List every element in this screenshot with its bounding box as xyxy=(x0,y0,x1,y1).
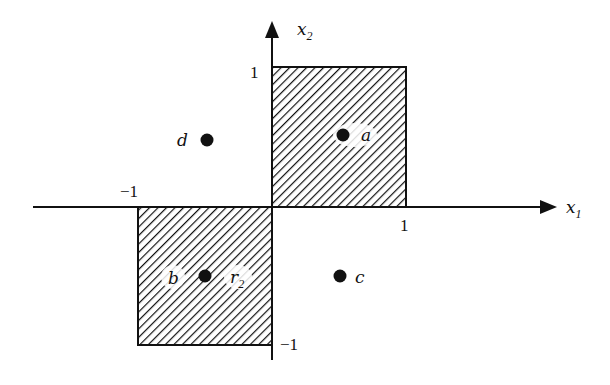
y-tick-pos: 1 xyxy=(250,63,259,82)
point-c: c xyxy=(334,267,366,287)
point-b-label: b xyxy=(168,268,179,288)
point-b-dot xyxy=(199,270,212,283)
point-d-dot xyxy=(201,134,214,147)
x-tick-neg: −1 xyxy=(120,182,138,201)
point-a-dot xyxy=(337,129,350,142)
point-c-label: c xyxy=(355,267,365,287)
y-axis-arrow-icon xyxy=(265,21,279,38)
point-c-dot xyxy=(334,270,347,283)
quadrant-diagram: x1 x2 1 −1 1 −1 a b r2 c d xyxy=(0,0,610,385)
point-a: a xyxy=(333,123,377,147)
x-axis-label: x1 xyxy=(566,197,582,221)
point-a-label: a xyxy=(361,125,371,145)
point-d: d xyxy=(177,130,214,150)
y-tick-neg: −1 xyxy=(280,335,298,354)
point-d-label: d xyxy=(177,130,188,150)
x-axis-arrow-icon xyxy=(540,200,557,214)
y-axis-label: x2 xyxy=(297,19,313,43)
x-tick-pos: 1 xyxy=(400,216,409,235)
